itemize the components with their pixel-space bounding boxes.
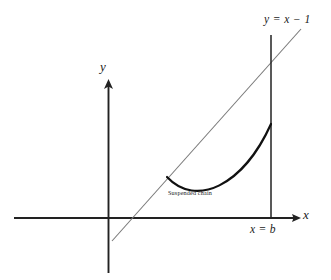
x-axis-label: x [303,208,309,221]
line-y-equals-x-minus-1 [112,29,301,241]
suspended-chain-label: Suspended chain [168,190,212,196]
x-axis [14,214,301,222]
x-equals-b-label: x = b [250,224,276,236]
y-axis [104,79,113,273]
suspended-chain-diagram: y = x − 1 y x x = b Suspended chain [0,0,331,280]
diagram-canvas [0,0,331,280]
suspended-chain-curve [167,124,271,191]
y-axis-label: y [100,60,106,73]
line-equation-label: y = x − 1 [264,14,311,26]
